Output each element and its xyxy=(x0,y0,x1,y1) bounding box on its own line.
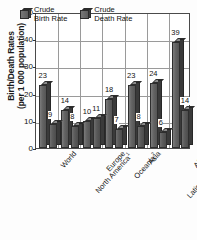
y-tick-mark xyxy=(33,67,36,68)
value-label-death-4: 8 xyxy=(136,113,141,121)
value-label-birth-1: 14 xyxy=(60,97,69,105)
x-axis-labels: WorldNorth America1EuropeOceania2AsiaLat… xyxy=(0,150,197,240)
value-label-death-6: 14 xyxy=(180,97,189,105)
x-label-africa: Africa xyxy=(192,150,197,170)
y-tick-20: 20 xyxy=(17,91,33,99)
bar-birth-4 xyxy=(128,85,136,148)
value-label-birth-2: 10 xyxy=(82,108,91,116)
x-label-world: World xyxy=(59,150,78,170)
value-label-death-5: 6 xyxy=(158,119,163,127)
value-label-birth-5: 24 xyxy=(149,70,158,78)
legend-item-crude-death-rate: Crude Death Rate xyxy=(80,6,132,23)
bar-death-2 xyxy=(93,118,101,148)
value-label-birth-0: 23 xyxy=(38,72,47,80)
bar-birth-0 xyxy=(39,85,47,148)
bar-death-1 xyxy=(71,126,79,148)
y-tick-mark xyxy=(33,13,36,14)
legend-label-birth: Crude Birth Rate xyxy=(34,6,67,23)
bar-death-4 xyxy=(137,126,145,148)
y-tick-40: 40 xyxy=(17,36,33,44)
y-tick-mark xyxy=(33,95,36,96)
birth-death-rates-chart: Birth/Death Rates (per 1 000 population)… xyxy=(0,0,197,240)
legend-item-crude-birth-rate: Crude Birth Rate xyxy=(20,6,67,23)
bar-birth-5 xyxy=(150,83,158,148)
y-tick-mark xyxy=(33,149,36,150)
bar-birth-1 xyxy=(61,110,69,148)
chart-legend: Crude Birth Rate Crude Death Rate xyxy=(20,6,132,23)
y-tick-30: 30 xyxy=(17,63,33,71)
legend-label-death: Crude Death Rate xyxy=(94,6,132,23)
value-label-death-2: 11 xyxy=(92,105,101,113)
plot-area: 23141018232439981178614 xyxy=(35,13,190,149)
y-tick-10: 10 xyxy=(17,118,33,126)
value-label-birth-6: 39 xyxy=(171,29,180,37)
value-label-death-0: 9 xyxy=(48,111,53,119)
value-label-death-1: 8 xyxy=(70,113,75,121)
bar-death-0 xyxy=(49,124,57,148)
cube-swatch-icon xyxy=(80,8,91,19)
value-label-death-3: 7 xyxy=(114,116,119,124)
bar-death-3 xyxy=(115,129,123,148)
cube-swatch-icon xyxy=(20,8,31,19)
bar-death-6 xyxy=(181,110,189,148)
value-label-birth-3: 18 xyxy=(104,86,113,94)
bar-birth-3 xyxy=(105,99,113,148)
bar-death-5 xyxy=(159,132,167,148)
value-label-birth-4: 23 xyxy=(127,72,136,80)
bar-birth-6 xyxy=(172,42,180,148)
y-tick-mark xyxy=(33,40,36,41)
y-tick-mark xyxy=(33,122,36,123)
bar-birth-2 xyxy=(83,121,91,148)
